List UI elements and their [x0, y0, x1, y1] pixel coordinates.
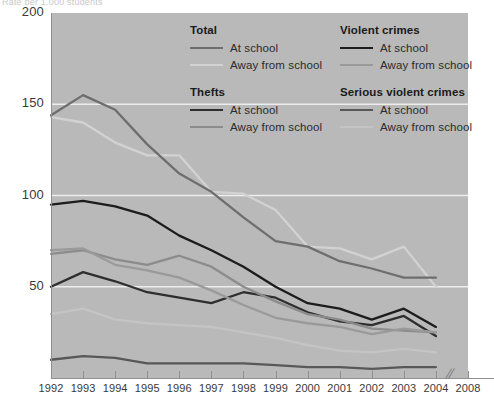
- legend-group: TheftsAt schoolAway from school: [190, 86, 330, 135]
- legend-column-left: TotalAt schoolAway from schoolTheftsAt s…: [190, 24, 330, 148]
- legend-item-label: Away from school: [380, 59, 472, 71]
- legend-item[interactable]: At school: [340, 102, 485, 118]
- legend-item-label: At school: [230, 42, 278, 54]
- x-tick-mark: [147, 371, 148, 378]
- legend-item-label: At school: [230, 104, 278, 116]
- y-tick-label: 50: [0, 278, 44, 293]
- x-tick-label: 2008: [448, 382, 488, 394]
- series-line: [51, 356, 436, 369]
- legend-item[interactable]: At school: [190, 40, 330, 56]
- x-tick-mark: [83, 371, 84, 378]
- y-tick-label: 200: [0, 4, 44, 19]
- legend-group-title: Violent crimes: [340, 24, 485, 36]
- x-tick-mark: [340, 371, 341, 378]
- y-axis-line: [51, 13, 52, 378]
- x-tick-mark: [372, 371, 373, 378]
- legend-group-title: Thefts: [190, 86, 330, 98]
- x-tick-mark: [436, 371, 437, 378]
- x-tick-mark: [276, 371, 277, 378]
- legend-group: Violent crimesAt schoolAway from school: [340, 24, 485, 73]
- series-line: [51, 309, 436, 353]
- legend-group: Serious violent crimesAt schoolAway from…: [340, 86, 485, 135]
- x-tick-mark: [179, 371, 180, 378]
- x-tick-mark: [243, 371, 244, 378]
- legend-column-right: Violent crimesAt schoolAway from schoolS…: [340, 24, 485, 148]
- line-chart: Rate per 1,000 students 20015010050 1992…: [0, 0, 494, 401]
- legend-item-label: At school: [380, 42, 428, 54]
- x-tick-mark: [51, 371, 52, 378]
- x-tick-mark: [115, 371, 116, 378]
- legend-item[interactable]: Away from school: [340, 57, 485, 73]
- legend-line-swatch-icon: [190, 126, 223, 128]
- legend-group-title: Serious violent crimes: [340, 86, 485, 98]
- x-tick-mark: [468, 371, 469, 378]
- legend-group: TotalAt schoolAway from school: [190, 24, 330, 73]
- legend-group-title: Total: [190, 24, 330, 36]
- y-tick-label: 100: [0, 187, 44, 202]
- legend-item-label: Away from school: [230, 121, 322, 133]
- legend-line-swatch-icon: [190, 47, 223, 49]
- legend-line-swatch-icon: [340, 47, 373, 49]
- legend-line-swatch-icon: [340, 109, 373, 111]
- legend-item[interactable]: At school: [190, 102, 330, 118]
- legend-line-swatch-icon: [340, 64, 373, 66]
- legend-item[interactable]: Away from school: [190, 57, 330, 73]
- legend-line-swatch-icon: [190, 64, 223, 66]
- legend-item-label: Away from school: [380, 121, 472, 133]
- legend-item[interactable]: At school: [340, 40, 485, 56]
- legend-item-label: Away from school: [230, 59, 322, 71]
- x-axis-line: [51, 378, 494, 379]
- legend-item[interactable]: Away from school: [190, 119, 330, 135]
- y-tick-label: 150: [0, 95, 44, 110]
- series-line: [51, 201, 436, 327]
- legend-item-label: At school: [380, 104, 428, 116]
- legend-line-swatch-icon: [190, 109, 223, 111]
- x-tick-mark: [404, 371, 405, 378]
- legend-item[interactable]: Away from school: [340, 119, 485, 135]
- x-tick-mark: [211, 371, 212, 378]
- x-tick-mark: [308, 371, 309, 378]
- legend-line-swatch-icon: [340, 126, 373, 128]
